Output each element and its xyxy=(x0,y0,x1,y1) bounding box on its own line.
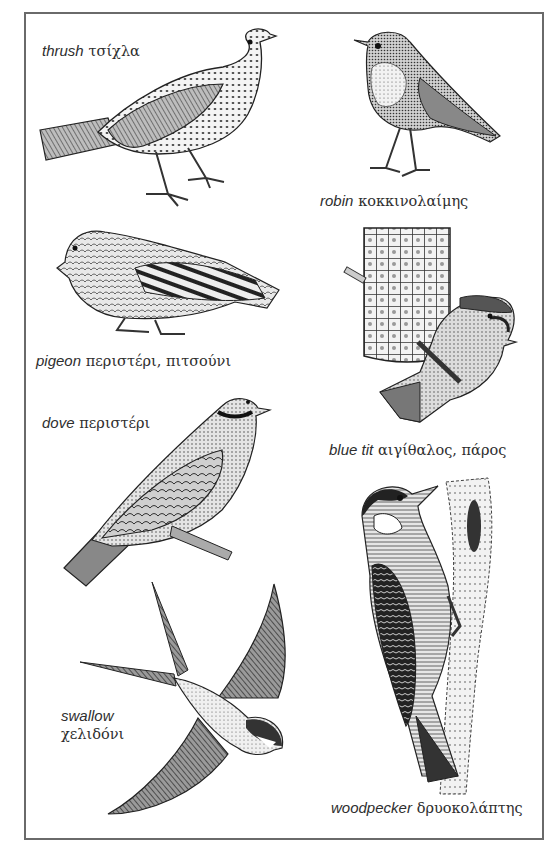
swallow-illustration xyxy=(78,578,298,828)
label-woodpecker: woodpecker δρυοκολάπτης xyxy=(331,798,523,818)
label-greek: χελιδόνι xyxy=(61,725,124,744)
label-greek: περιστέρι, πιτσούνι xyxy=(86,353,231,369)
dove-illustration xyxy=(62,390,272,590)
label-greek: δρυοκολάπτης xyxy=(417,800,523,816)
label-greek: αιγίθαλος, πάρος xyxy=(378,442,506,458)
label-blue-tit: blue tit αιγίθαλος, πάρος xyxy=(329,440,506,460)
label-english: woodpecker xyxy=(331,799,412,816)
label-english: blue tit xyxy=(329,441,373,458)
pigeon-illustration xyxy=(55,218,285,338)
blue-tit-illustration xyxy=(340,222,530,432)
label-swallow: swallow χελιδόνι xyxy=(61,706,124,744)
label-greek: κοκκινολαίμης xyxy=(358,193,468,209)
label-robin: robin κοκκινολαίμης xyxy=(320,191,468,211)
label-english: pigeon xyxy=(36,352,81,369)
thrush-illustration xyxy=(38,22,278,212)
woodpecker-illustration xyxy=(348,476,528,796)
label-english: robin xyxy=(320,192,353,209)
label-pigeon: pigeon περιστέρι, πιτσούνι xyxy=(36,351,231,371)
label-english: swallow xyxy=(61,706,124,725)
robin-illustration xyxy=(350,28,510,178)
